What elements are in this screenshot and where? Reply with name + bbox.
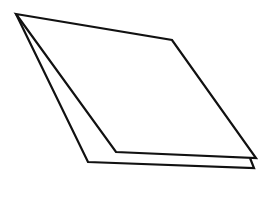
- diagram-canvas: Two stacked sheets of paper drawn as par…: [0, 0, 268, 198]
- stacked-sheets-drawing: [0, 0, 268, 198]
